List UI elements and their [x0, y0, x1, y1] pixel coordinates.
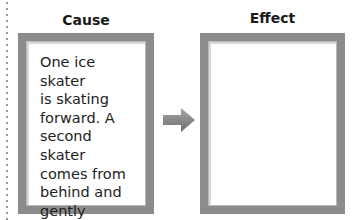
cause-title: Cause	[18, 12, 154, 28]
dotted-margin-line	[6, 0, 8, 220]
effect-title: Effect	[200, 10, 345, 26]
effect-box[interactable]	[200, 33, 345, 214]
cause-box: One ice skater is skating forward. A sec…	[18, 33, 154, 214]
cause-text: One ice skater is skating forward. A sec…	[40, 53, 138, 220]
right-arrow-icon	[162, 107, 196, 133]
